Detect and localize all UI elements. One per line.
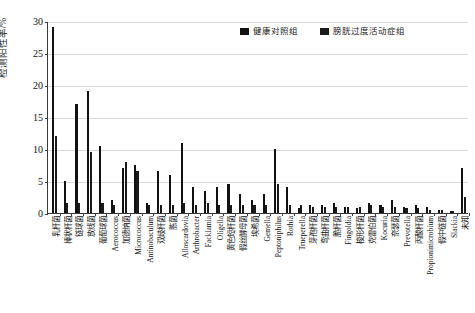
x-axis-labels: 乳杆菌棒状杆菌链球菌放线菌葡萄球菌Aerococcus加德纳菌Micrococc… (47, 216, 468, 311)
bar-group (181, 22, 193, 213)
bar-group (438, 22, 450, 213)
bar (417, 208, 419, 213)
bar-group (122, 22, 134, 213)
bar (452, 211, 454, 213)
bar-chart-figure: 051015202530 检测阳性率/% 乳杆菌棒状杆菌链球菌放线菌葡萄球菌Ae… (0, 0, 475, 313)
x-tick-label: Alloscardovia (182, 216, 190, 258)
bar-group (251, 22, 263, 213)
x-tick-label: Micrococcus (135, 216, 143, 255)
bar (78, 203, 80, 213)
bar-group (146, 22, 158, 213)
bar-group (111, 22, 123, 213)
y-tick-mark (45, 22, 48, 23)
x-tick-label: Oligella (217, 216, 225, 240)
bar-group (426, 22, 438, 213)
x-tick-label: Aerococcus (112, 216, 120, 251)
bar (312, 207, 314, 213)
x-tick-label: Fingoldia (345, 216, 353, 245)
bars-container (49, 22, 468, 213)
bar (405, 208, 407, 213)
bar-group (75, 22, 87, 213)
bar (429, 210, 431, 213)
bar-group (450, 22, 462, 213)
bar (370, 205, 372, 213)
bar (335, 207, 337, 213)
bar (464, 197, 466, 213)
x-tick-label: Gemella (264, 216, 272, 241)
bar-group (309, 22, 321, 213)
legend-entry-oab: 膀胱过度活动症组 (320, 26, 405, 36)
bar (253, 205, 255, 213)
bar-group (368, 22, 380, 213)
bar (101, 203, 103, 213)
y-tick-label: 30 (33, 17, 43, 27)
bar (75, 104, 77, 213)
bar-group (192, 22, 204, 213)
x-tick-label: Trueperella (299, 216, 307, 250)
bar-group (216, 22, 228, 213)
bar-group (298, 22, 310, 213)
bar (289, 205, 291, 213)
x-tick-label: 脆杆菌 (334, 216, 342, 237)
x-tick-label: 棒状杆菌 (65, 216, 73, 244)
bar (300, 205, 302, 213)
x-tick-label: 加德纳菌 (123, 216, 131, 244)
x-tick-label: 双歧杆菌 (158, 216, 166, 244)
bar-group (64, 22, 76, 213)
x-tick-label: 假丝酵母菌 (240, 216, 248, 251)
y-tick-label: 10 (33, 145, 43, 155)
bar-group (379, 22, 391, 213)
bar (265, 205, 267, 213)
bar-group (356, 22, 368, 213)
legend-swatch-oab (320, 28, 329, 35)
x-tick-label: 葡萄球菌 (100, 216, 108, 244)
plot-area: 051015202530 (47, 22, 468, 214)
bar-group (99, 22, 111, 213)
bar-group (286, 22, 298, 213)
x-tick-label: Arthrobacter (193, 216, 201, 254)
bar-group (134, 22, 146, 213)
x-tick-label: 胨菌 (170, 216, 178, 230)
y-tick-mark (45, 86, 48, 87)
chart-legend: 健康对照组 膀胱过度活动症组 (240, 26, 405, 36)
bar (172, 205, 174, 213)
legend-swatch-control (240, 28, 249, 35)
bar (324, 207, 326, 213)
bar-group (52, 22, 64, 213)
bar (66, 203, 68, 213)
x-tick-label: Peptoniphilus (275, 216, 283, 257)
y-tick-label: 15 (33, 113, 43, 123)
x-tick-label: Slackia (451, 216, 459, 238)
x-tick-label: 弯曲杆菌 (322, 216, 330, 244)
bar (382, 207, 384, 213)
bar-group (321, 22, 333, 213)
bar (195, 205, 197, 213)
y-tick-mark (45, 182, 48, 183)
legend-label-control: 健康对照组 (253, 26, 298, 36)
x-tick-label: Kocuria (381, 216, 389, 240)
x-tick-label: 乳杆菌 (53, 216, 61, 237)
bar-group (227, 22, 239, 213)
bar (90, 152, 92, 213)
bar (148, 205, 150, 213)
bar-group (461, 22, 473, 213)
x-tick-label: 奈瑟菌 (392, 216, 400, 237)
bar (218, 205, 220, 213)
x-tick-label: 黄色短杆菌 (228, 216, 236, 251)
bar-group (333, 22, 345, 213)
y-tick-label: 25 (33, 49, 43, 59)
bar (277, 184, 279, 213)
y-tick-label: 5 (38, 177, 43, 187)
x-tick-label: 芽孢杆菌 (310, 216, 318, 244)
y-tick-mark (45, 150, 48, 151)
legend-entry-control: 健康对照组 (240, 26, 298, 36)
bar-group (87, 22, 99, 213)
bar-group (157, 22, 169, 213)
x-tick-label: 链球菌 (76, 216, 84, 237)
bar-group (403, 22, 415, 213)
bar (183, 203, 185, 213)
bar-group (204, 22, 216, 213)
y-tick-mark (45, 54, 48, 55)
y-tick-mark (45, 118, 48, 119)
bar (242, 205, 244, 213)
